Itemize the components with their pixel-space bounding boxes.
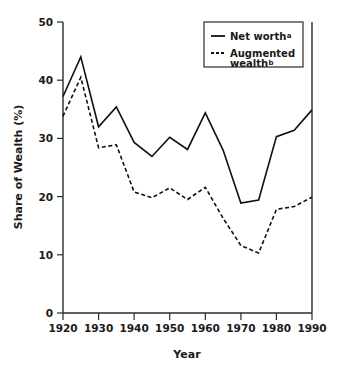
y-tick-30: 30 (38, 132, 53, 144)
x-axis-title: Year (172, 348, 201, 361)
x-tick-1990: 1990 (297, 322, 326, 334)
y-tick-50: 50 (38, 16, 53, 28)
x-tick-1940: 1940 (119, 322, 148, 334)
y-tick-20: 20 (38, 191, 53, 203)
x-tick-1970: 1970 (226, 322, 255, 334)
y-axis-ticks (57, 22, 63, 313)
x-axis-tick-labels: 1920 1930 1940 1950 1960 1970 1980 1990 (48, 322, 326, 334)
x-tick-1980: 1980 (262, 322, 291, 334)
legend-superscript-a: a (287, 32, 292, 40)
x-tick-1920: 1920 (48, 322, 77, 334)
series-net-worth-line (63, 57, 312, 203)
y-tick-10: 10 (38, 249, 53, 261)
y-axis-title: Share of Wealth (%) (12, 105, 25, 229)
x-tick-1930: 1930 (84, 322, 113, 334)
legend-label-augmented-wealth-line2: wealth (230, 58, 268, 69)
legend-superscript-b: b (269, 59, 274, 67)
x-tick-1950: 1950 (155, 322, 184, 334)
y-tick-40: 40 (38, 74, 53, 86)
y-axis-tick-labels: 50 40 30 20 10 0 (38, 16, 53, 319)
x-axis-ticks (63, 313, 312, 320)
chart-figure: 50 40 30 20 10 0 1920 1930 1940 1950 196… (0, 0, 338, 373)
x-tick-1960: 1960 (191, 322, 220, 334)
legend-label-net-worth: Net worth (230, 31, 286, 42)
line-chart: 50 40 30 20 10 0 1920 1930 1940 1950 196… (0, 0, 338, 373)
series-augmented-wealth-line (63, 77, 312, 253)
chart-legend: Net worth a Augmented wealth b (204, 22, 303, 69)
y-tick-0: 0 (46, 307, 53, 319)
